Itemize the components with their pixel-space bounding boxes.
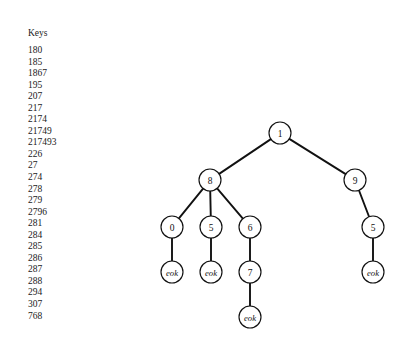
- tree-edge: [217, 188, 243, 218]
- node-label: 9: [353, 176, 358, 186]
- tree-node: 9: [344, 169, 366, 191]
- node-label: eok: [205, 268, 217, 278]
- node-label: eok: [367, 268, 379, 278]
- tree-node: 8: [199, 169, 221, 191]
- tree-node-terminal: eok: [161, 261, 183, 283]
- tree-node: 1: [269, 122, 291, 144]
- tree-canvas: 1890565eokeok7eokeok: [0, 0, 416, 342]
- node-label: eok: [166, 268, 178, 278]
- tree-node-terminal: eok: [200, 261, 222, 283]
- tree-edge: [359, 190, 369, 216]
- tree-edge: [210, 191, 211, 216]
- node-label: 1: [278, 129, 283, 139]
- node-label: 6: [248, 223, 253, 233]
- tree-node: 0: [161, 216, 183, 238]
- tree-node-terminal: eok: [239, 306, 261, 328]
- tree-node: 5: [200, 216, 222, 238]
- node-label: 5: [371, 223, 376, 233]
- tree-node: 7: [239, 261, 261, 283]
- tree-nodes-group: 1890565eokeok7eokeok: [161, 122, 384, 328]
- node-label: 5: [209, 223, 214, 233]
- tree-node: 6: [239, 216, 261, 238]
- node-label: eok: [244, 313, 256, 323]
- tree-node: 5: [362, 216, 384, 238]
- tree-node-terminal: eok: [362, 261, 384, 283]
- trie-tree-diagram: 1890565eokeok7eokeok: [0, 0, 416, 342]
- node-label: 0: [170, 223, 175, 233]
- node-label: 7: [248, 268, 253, 278]
- tree-edge: [289, 139, 345, 174]
- tree-edge: [179, 189, 203, 219]
- tree-edge: [219, 139, 271, 174]
- node-label: 8: [208, 176, 213, 186]
